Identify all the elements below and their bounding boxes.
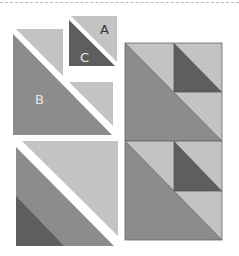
corner-unit (16, 141, 118, 246)
small-hst-unit: A C (69, 16, 117, 66)
quilt-diagram: A C B (0, 0, 239, 256)
label-b: B (35, 92, 44, 107)
label-c: C (80, 50, 89, 65)
assembled-block (125, 43, 222, 240)
large-hst-unit: B (13, 29, 113, 135)
label-a: A (100, 22, 109, 37)
